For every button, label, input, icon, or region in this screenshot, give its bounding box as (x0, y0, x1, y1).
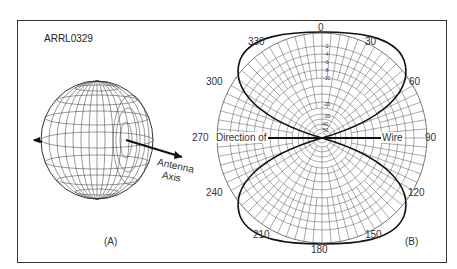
angle-210: 210 (253, 229, 270, 240)
db-tick: -4 (324, 51, 328, 57)
angle-270: 270 (192, 132, 209, 143)
angle-180: 180 (311, 244, 328, 255)
angle-60: 60 (409, 76, 420, 87)
db-tick: -50 (321, 127, 328, 133)
panel-b-label: (B) (405, 236, 418, 247)
angle-30: 30 (365, 36, 376, 47)
angle-300: 300 (206, 76, 223, 87)
db-tick: -8 (324, 67, 328, 73)
direction-of-label: Direction of (215, 132, 268, 143)
db-tick: -10 (323, 75, 330, 81)
db-tick: -6 (324, 59, 328, 65)
angle-0: 0 (318, 22, 324, 33)
angle-90: 90 (425, 132, 436, 143)
angle-240: 240 (206, 187, 223, 198)
db-tick: -20 (323, 101, 330, 107)
wire-label: Wire (381, 132, 404, 143)
angle-120: 120 (408, 187, 425, 198)
db-tick: -2 (324, 43, 328, 49)
angle-150: 150 (365, 229, 382, 240)
angle-330: 330 (248, 36, 265, 47)
db-tick: -30 (323, 113, 330, 119)
